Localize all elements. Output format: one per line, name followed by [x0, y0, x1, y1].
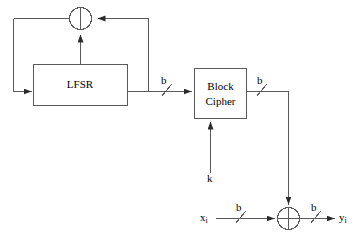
block-cipher-box: [195, 69, 247, 119]
plaintext-width-slash: [236, 212, 246, 224]
diagram-canvas: LFSR Block Cipher b b k xi b b yi: [0, 0, 361, 240]
ciphertext-label: yi: [339, 211, 347, 225]
cipher-out-width-label: b: [257, 74, 263, 86]
ciphertext-width-slash: [311, 212, 321, 224]
lfsr-out-width-label: b: [161, 74, 167, 86]
diagram-wires: [0, 0, 361, 240]
key-label: k: [207, 172, 213, 184]
lfsr-label: LFSR: [33, 78, 127, 91]
lfsr-out-width-slash: [162, 85, 172, 97]
plaintext-label: xi: [200, 211, 208, 225]
block-cipher-label-line1: Block: [194, 80, 247, 93]
plaintext-subscript: i: [206, 216, 208, 225]
ciphertext-width-label: b: [311, 201, 317, 213]
cipher-out-width-slash: [257, 85, 267, 97]
block-cipher-label-line2: Cipher: [194, 95, 247, 108]
plaintext-width-label: b: [236, 201, 242, 213]
ciphertext-subscript: i: [345, 216, 347, 225]
